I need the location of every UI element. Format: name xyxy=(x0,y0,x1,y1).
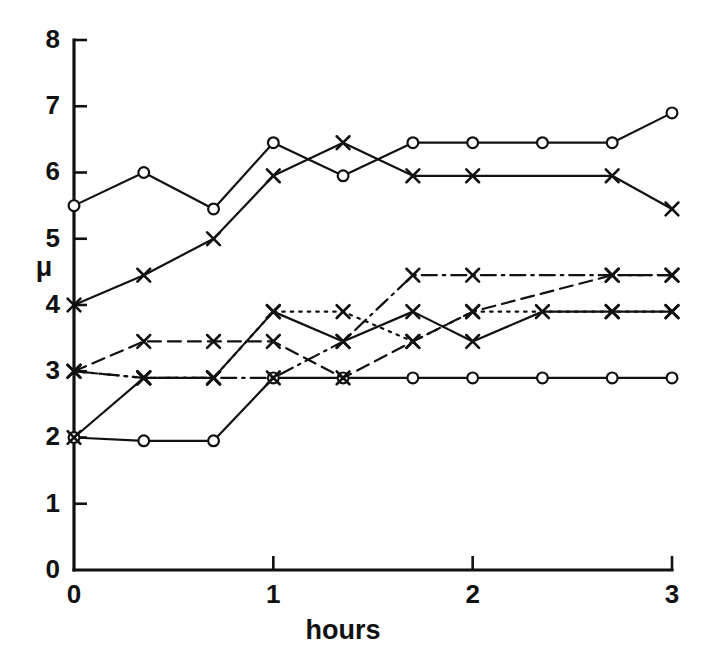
series-lower-crosses-dashed xyxy=(68,269,679,384)
y-tick-label-8: 8 xyxy=(46,24,60,54)
y-tick-label-6: 6 xyxy=(46,156,60,186)
series-lower-circles-solid-flat xyxy=(69,372,678,446)
data-point-circle xyxy=(407,137,418,148)
series-line-lower-crosses-dashdot xyxy=(74,275,672,378)
y-tick-label-0: 0 xyxy=(46,554,60,584)
data-point-circle xyxy=(407,372,418,383)
series-line-lower-crosses-solid xyxy=(74,312,672,438)
y-axis-title: μ xyxy=(36,252,53,282)
series-group xyxy=(68,107,679,446)
data-point-cross xyxy=(267,305,280,318)
data-point-circle xyxy=(467,372,478,383)
data-point-cross xyxy=(406,305,419,318)
data-point-cross xyxy=(466,335,479,348)
data-point-circle xyxy=(138,167,149,178)
data-point-circle xyxy=(208,204,219,215)
data-point-circle xyxy=(138,435,149,446)
data-point-circle xyxy=(338,170,349,181)
series-lower-crosses-dashdot xyxy=(68,269,679,384)
x-axis-title: hours xyxy=(305,615,380,645)
series-upper-circles-solid xyxy=(69,107,678,214)
y-tick-label-3: 3 xyxy=(46,355,60,385)
data-point-cross xyxy=(337,305,350,318)
data-point-cross xyxy=(466,269,479,282)
data-point-circle xyxy=(69,200,80,211)
data-point-circle xyxy=(208,435,219,446)
data-point-circle xyxy=(537,372,548,383)
chart-canvas: 0123456780123μhours xyxy=(0,0,712,664)
series-line-upper-crosses-solid xyxy=(74,143,672,305)
data-point-cross xyxy=(207,232,220,245)
x-tick-label-3: 3 xyxy=(665,579,679,609)
y-tick-label-5: 5 xyxy=(46,223,60,253)
series-lower-crosses-dotted xyxy=(68,305,679,384)
x-tick-label-2: 2 xyxy=(465,579,479,609)
series-lower-crosses-solid xyxy=(68,305,679,444)
series-line-lower-circles-solid-flat xyxy=(74,378,672,441)
figure-container: 0123456780123μhours xyxy=(0,0,712,664)
data-point-cross xyxy=(406,335,419,348)
data-point-cross xyxy=(406,269,419,282)
data-point-cross xyxy=(267,169,280,182)
y-tick-label-1: 1 xyxy=(46,488,60,518)
data-point-circle xyxy=(667,107,678,118)
series-line-lower-crosses-dashed xyxy=(74,275,672,378)
data-point-cross xyxy=(137,269,150,282)
data-point-circle xyxy=(607,372,618,383)
series-line-lower-crosses-dotted xyxy=(74,312,672,378)
data-point-cross xyxy=(337,136,350,149)
y-tick-label-7: 7 xyxy=(46,90,60,120)
x-tick-label-1: 1 xyxy=(266,579,280,609)
data-point-circle xyxy=(537,137,548,148)
x-tick-label-0: 0 xyxy=(67,579,81,609)
series-line-upper-circles-solid xyxy=(74,113,672,209)
data-point-cross xyxy=(337,335,350,348)
y-tick-label-2: 2 xyxy=(46,421,60,451)
y-tick-label-4: 4 xyxy=(46,289,61,319)
data-point-cross xyxy=(666,203,679,216)
data-point-circle xyxy=(607,137,618,148)
axes-group xyxy=(74,40,672,570)
data-point-circle xyxy=(667,372,678,383)
data-point-circle xyxy=(268,137,279,148)
data-point-circle xyxy=(467,137,478,148)
data-point-cross xyxy=(466,305,479,318)
